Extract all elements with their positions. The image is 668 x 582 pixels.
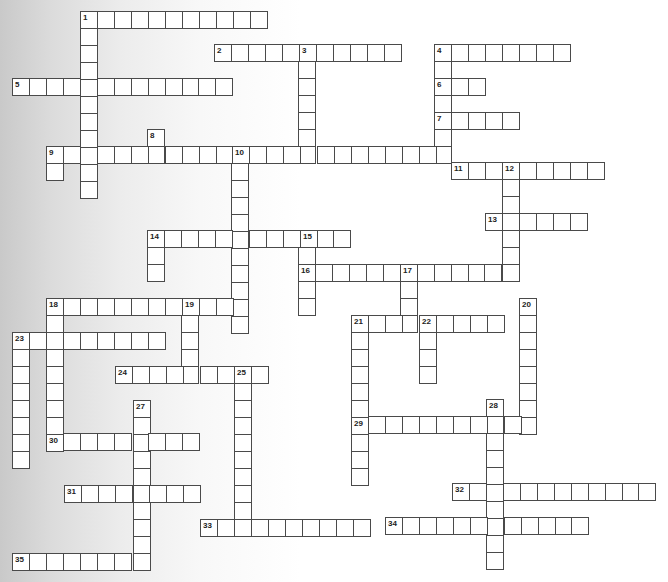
crossword-cell[interactable]: [12, 434, 30, 452]
crossword-cell[interactable]: [519, 162, 537, 180]
crossword-cell[interactable]: 7: [434, 112, 452, 130]
crossword-cell[interactable]: [419, 146, 437, 164]
crossword-cell[interactable]: [165, 298, 183, 316]
crossword-cell[interactable]: [216, 11, 234, 29]
crossword-cell[interactable]: [436, 517, 454, 535]
crossword-cell[interactable]: [114, 11, 132, 29]
crossword-cell[interactable]: [468, 44, 486, 62]
crossword-cell[interactable]: [131, 146, 149, 164]
crossword-cell[interactable]: [553, 213, 571, 231]
crossword-cell[interactable]: [131, 78, 149, 96]
crossword-cell[interactable]: [234, 519, 252, 537]
crossword-cell[interactable]: [148, 298, 166, 316]
crossword-cell[interactable]: [131, 332, 149, 350]
crossword-cell[interactable]: [165, 433, 183, 451]
crossword-cell[interactable]: [265, 44, 283, 62]
crossword-cell[interactable]: 2: [214, 44, 232, 62]
crossword-cell[interactable]: [368, 315, 386, 333]
crossword-cell[interactable]: [298, 78, 316, 96]
crossword-cell[interactable]: [149, 366, 167, 384]
crossword-cell[interactable]: [417, 264, 435, 282]
crossword-cell[interactable]: [519, 315, 537, 333]
crossword-cell[interactable]: [502, 179, 520, 197]
crossword-cell[interactable]: [353, 519, 371, 537]
crossword-cell[interactable]: [133, 553, 151, 571]
crossword-cell[interactable]: [451, 112, 469, 130]
crossword-cell[interactable]: 18: [46, 298, 64, 316]
crossword-cell[interactable]: [350, 44, 368, 62]
crossword-cell[interactable]: [486, 501, 504, 519]
crossword-cell[interactable]: [217, 366, 235, 384]
crossword-cell[interactable]: [164, 230, 182, 248]
crossword-cell[interactable]: [266, 230, 284, 248]
crossword-cell[interactable]: [147, 247, 165, 265]
crossword-cell[interactable]: [80, 164, 98, 182]
crossword-cell[interactable]: [419, 366, 437, 384]
crossword-cell[interactable]: [383, 264, 401, 282]
crossword-cell[interactable]: 34: [385, 517, 403, 535]
crossword-cell[interactable]: [504, 517, 522, 535]
crossword-cell[interactable]: [351, 146, 369, 164]
crossword-cell[interactable]: [436, 416, 454, 434]
crossword-cell[interactable]: [148, 332, 166, 350]
crossword-cell[interactable]: 27: [133, 400, 151, 418]
crossword-cell[interactable]: [486, 552, 504, 570]
crossword-cell[interactable]: 14: [147, 230, 165, 248]
crossword-cell[interactable]: [502, 196, 520, 214]
crossword-cell[interactable]: [63, 553, 81, 571]
crossword-cell[interactable]: [434, 129, 452, 147]
crossword-cell[interactable]: 32: [452, 483, 470, 501]
crossword-cell[interactable]: [133, 536, 151, 554]
crossword-cell[interactable]: 28: [486, 399, 504, 417]
crossword-cell[interactable]: 29: [351, 417, 369, 435]
crossword-cell[interactable]: [298, 129, 316, 147]
crossword-cell[interactable]: 4: [434, 44, 452, 62]
crossword-cell[interactable]: [266, 146, 284, 164]
crossword-cell[interactable]: [536, 162, 554, 180]
crossword-cell[interactable]: [97, 332, 115, 350]
crossword-cell[interactable]: [268, 519, 286, 537]
crossword-cell[interactable]: [434, 95, 452, 113]
crossword-cell[interactable]: [470, 416, 488, 434]
crossword-cell[interactable]: [537, 483, 555, 501]
crossword-cell[interactable]: [231, 44, 249, 62]
crossword-cell[interactable]: [46, 349, 64, 367]
crossword-cell[interactable]: [215, 78, 233, 96]
crossword-cell[interactable]: [519, 383, 537, 401]
crossword-cell[interactable]: [234, 468, 252, 486]
crossword-cell[interactable]: [554, 483, 572, 501]
crossword-cell[interactable]: 20: [519, 298, 537, 316]
crossword-cell[interactable]: 9: [46, 146, 64, 164]
crossword-cell[interactable]: [182, 433, 200, 451]
crossword-cell[interactable]: 10: [232, 146, 250, 164]
crossword-cell[interactable]: [368, 146, 386, 164]
crossword-cell[interactable]: [538, 517, 556, 535]
crossword-cell[interactable]: [553, 162, 571, 180]
crossword-cell[interactable]: [234, 383, 252, 401]
crossword-cell[interactable]: [147, 264, 165, 282]
crossword-cell[interactable]: [29, 78, 47, 96]
crossword-cell[interactable]: [81, 485, 99, 503]
crossword-cell[interactable]: 5: [12, 78, 30, 96]
crossword-cell[interactable]: [131, 11, 149, 29]
crossword-cell[interactable]: [453, 517, 471, 535]
crossword-cell[interactable]: [334, 146, 352, 164]
crossword-cell[interactable]: [367, 44, 385, 62]
crossword-cell[interactable]: [148, 78, 166, 96]
crossword-cell[interactable]: [97, 11, 115, 29]
crossword-cell[interactable]: [80, 298, 98, 316]
crossword-cell[interactable]: [536, 44, 554, 62]
crossword-cell[interactable]: [298, 281, 316, 299]
crossword-cell[interactable]: [215, 230, 233, 248]
crossword-cell[interactable]: [487, 315, 505, 333]
crossword-cell[interactable]: [638, 483, 656, 501]
crossword-cell[interactable]: 33: [200, 519, 218, 537]
crossword-cell[interactable]: [316, 44, 334, 62]
crossword-cell[interactable]: [114, 433, 132, 451]
crossword-cell[interactable]: [385, 315, 403, 333]
crossword-cell[interactable]: [502, 230, 520, 248]
crossword-cell[interactable]: [133, 519, 151, 537]
crossword-cell[interactable]: [419, 349, 437, 367]
crossword-cell[interactable]: [351, 400, 369, 418]
crossword-cell[interactable]: [519, 213, 537, 231]
